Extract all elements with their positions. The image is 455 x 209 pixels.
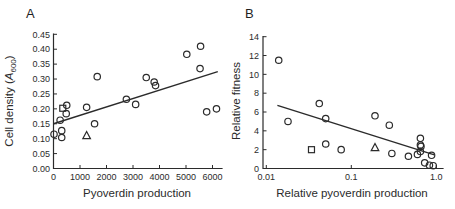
data-point-circle [323, 141, 329, 147]
panel-a-label: A [26, 7, 35, 20]
data-point-circle [338, 146, 344, 152]
panel-b-label: B [245, 7, 254, 20]
y-tick-label: 4 [254, 126, 259, 136]
x-tick-label: 5000 [176, 172, 196, 182]
data-point-circle [57, 117, 63, 123]
data-point-circle [197, 43, 203, 49]
data-point-circle [372, 113, 378, 119]
data-point-circle [213, 106, 219, 112]
figure: A B 01000200030004000500060000.000.050.1… [0, 0, 455, 209]
data-point-circle [197, 65, 203, 71]
data-point-circle [83, 104, 89, 110]
data-point-circle [184, 51, 190, 57]
data-point-triangle [83, 131, 91, 138]
y-tick-label: 0.25 [32, 89, 50, 99]
scatter-plots-canvas: 01000200030004000500060000.000.050.100.1… [0, 0, 455, 209]
x-axis-label: Relative pyoverdin production [276, 187, 428, 199]
x-tick-label: 1.0 [430, 172, 443, 182]
y-tick-label: 0 [254, 164, 259, 174]
x-tick-label: 3000 [123, 172, 143, 182]
trend-line [277, 105, 434, 154]
y-tick-label: 0.15 [32, 119, 50, 129]
y-axis-label: Relative fitness [230, 62, 242, 140]
y-tick-label: 0.30 [32, 74, 50, 84]
trend-line [54, 72, 218, 124]
y-tick-label: 2 [254, 145, 259, 155]
data-point-circle [59, 134, 65, 140]
y-tick-label: 6 [254, 107, 259, 117]
y-tick-label: 10 [249, 70, 259, 80]
data-point-triangle [371, 144, 379, 151]
x-tick-label: 4000 [149, 172, 169, 182]
x-tick-label: 0.1 [345, 172, 358, 182]
data-point-circle [417, 135, 423, 141]
data-point-circle [143, 74, 149, 80]
y-tick-label: 0.40 [32, 44, 50, 54]
data-point-circle [276, 57, 282, 63]
y-tick-label: 0.45 [32, 30, 50, 40]
y-tick-label: 14 [249, 32, 259, 42]
data-point-circle [405, 153, 411, 159]
data-point-circle [285, 118, 291, 124]
x-tick-label: 0 [51, 172, 56, 182]
data-point-circle [132, 101, 138, 107]
y-tick-label: 0.35 [32, 59, 50, 69]
x-tick-label: 6000 [202, 172, 222, 182]
y-tick-label: 12 [249, 51, 259, 61]
y-tick-label: 0.20 [32, 104, 50, 114]
data-point-circle [94, 73, 100, 79]
y-tick-label: 0.00 [32, 164, 50, 174]
y-tick-label: 0.05 [32, 149, 50, 159]
x-tick-label: 1000 [70, 172, 90, 182]
x-tick-label: 0.01 [258, 172, 276, 182]
y-tick-label: 0.10 [32, 134, 50, 144]
x-axis-label: Pyoverdin production [83, 187, 191, 199]
data-point-circle [389, 150, 395, 156]
data-point-circle [386, 122, 392, 128]
data-point-circle [203, 109, 209, 115]
data-point-circle [91, 121, 97, 127]
y-tick-label: 8 [254, 88, 259, 98]
data-point-circle [316, 100, 322, 106]
x-tick-label: 2000 [96, 172, 116, 182]
panel-b: 0.010.11.002468101214Relative pyoverdin … [230, 32, 443, 199]
data-point-circle [59, 127, 65, 133]
data-point-square [308, 147, 314, 153]
panel-a: 01000200030004000500060000.000.050.100.1… [3, 30, 223, 200]
y-axis-label: Cell density (A600) [3, 55, 18, 147]
